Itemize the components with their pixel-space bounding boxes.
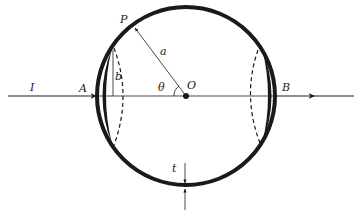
label-center-O: O [187,79,196,92]
label-radius-b: b [115,70,122,83]
label-radius-a: a [160,45,167,58]
spherical-shell-diagram: I A B P a b θ O t [0,0,361,214]
label-point-B: B [281,81,290,94]
left-dashed-section [114,48,123,145]
center-point [183,93,189,99]
angle-arc [174,86,179,96]
label-thickness-t: t [172,162,177,175]
label-angle-theta: θ [158,81,165,94]
right-dashed-section [250,50,260,143]
label-current-I: I [29,81,35,94]
label-point-P: P [119,13,128,26]
label-point-A: A [78,82,87,95]
